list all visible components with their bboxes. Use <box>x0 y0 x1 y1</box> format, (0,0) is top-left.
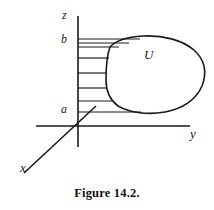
region-u-label: U <box>144 48 153 61</box>
z-axis-label: z <box>62 9 67 21</box>
z-mark-b-label: b <box>61 33 67 45</box>
z-mark-a-label: a <box>61 103 67 115</box>
x-axis <box>24 106 96 173</box>
region-u-outline <box>106 36 205 113</box>
figure-drawing <box>0 0 214 210</box>
figure-caption: Figure 14.2. <box>0 186 214 201</box>
y-axis-label: y <box>190 127 196 140</box>
x-axis-label: x <box>20 161 26 174</box>
figure-container: z b a y x U Figure 14.2. <box>0 0 214 210</box>
